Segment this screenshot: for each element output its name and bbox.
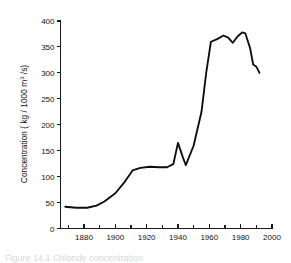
y-tick-label-200: 200 <box>41 121 55 130</box>
y-tick-label-150: 150 <box>41 147 55 156</box>
y-axis-title-suffix: /s) <box>19 65 29 77</box>
y-axis-title: Concentration ( kg / 1000 m3 /s) <box>19 65 29 184</box>
x-tick-label-1920: 1920 <box>138 233 156 242</box>
x-axis-ticks: 1880190019201940196019802000 <box>68 224 281 242</box>
y-tick-label-0: 0 <box>50 225 55 234</box>
x-tick-label-1980: 1980 <box>232 233 250 242</box>
y-tick-label-300: 300 <box>41 69 55 78</box>
y-tick-label-100: 100 <box>41 173 55 182</box>
svg-text:Concentration ( kg / 1000 m3 /: Concentration ( kg / 1000 m3 /s) <box>19 65 29 184</box>
y-tick-label-50: 50 <box>46 199 55 208</box>
y-axis-title-prefix: Concentration ( kg / 1000 m <box>19 80 29 183</box>
chart-axes <box>61 21 273 229</box>
y-tick-label-400: 400 <box>41 17 55 26</box>
x-tick-label-1900: 1900 <box>106 233 124 242</box>
y-axis-ticks: 050100150200250300350400 <box>41 17 60 234</box>
x-tick-label-1880: 1880 <box>75 233 93 242</box>
x-tick-label-2000: 2000 <box>263 233 281 242</box>
y-tick-label-350: 350 <box>41 43 55 52</box>
x-tick-label-1960: 1960 <box>200 233 218 242</box>
x-tick-label-1940: 1940 <box>169 233 187 242</box>
figure-caption: Figure 14.1 Chloride concentration <box>5 253 286 263</box>
data-series-line <box>65 32 259 207</box>
y-tick-label-250: 250 <box>41 95 55 104</box>
